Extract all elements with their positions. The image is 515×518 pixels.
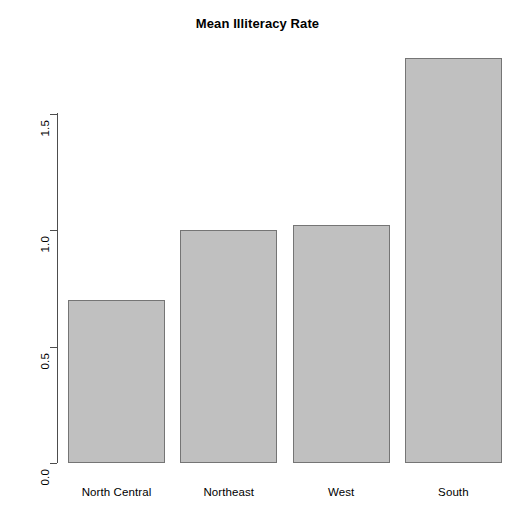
bars-layer [0, 0, 515, 518]
bar-northeast[interactable] [180, 230, 277, 463]
bar-north-central[interactable] [68, 300, 165, 463]
category-label-west: West [293, 486, 390, 498]
bar-chart-plot: Mean Illiteracy Rate 0.0 0.5 1.0 1.5 Nor… [0, 0, 515, 518]
category-label-northeast: Northeast [180, 486, 277, 498]
category-label-north-central: North Central [68, 486, 165, 498]
bar-south[interactable] [405, 58, 502, 463]
bar-west[interactable] [293, 225, 390, 463]
category-label-south: South [405, 486, 502, 498]
